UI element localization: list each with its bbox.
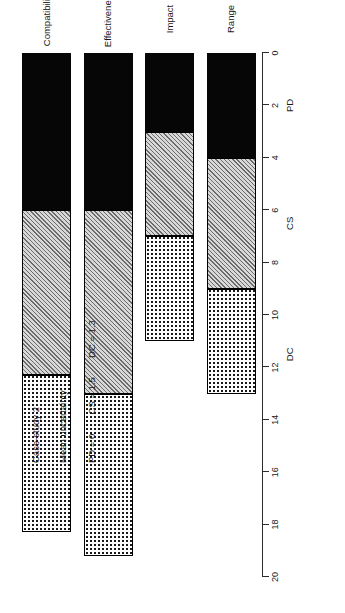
axis-tick-label-4: 4: [271, 155, 280, 160]
axis-tick-label-10: 10: [271, 310, 280, 320]
category-label-range: Range: [226, 5, 236, 33]
axis-tick-2: [262, 104, 269, 105]
axis-tick-label-12: 12: [271, 362, 280, 372]
bar-segment-compatibility-pd: [22, 53, 71, 210]
bar-segment-impact-pd: [145, 53, 194, 132]
axis-tick-0: [262, 52, 269, 53]
axis-tick-6: [262, 209, 269, 210]
axis-group-label-cs: CS: [285, 217, 295, 230]
category-label-impact: Impact: [165, 5, 175, 34]
axis-tick-label-14: 14: [271, 415, 280, 425]
mean-uncertainty-values: PD = 0 CS = 1.5 DC = 1.3: [86, 320, 97, 463]
cs-mean-value: CS = 1.5: [86, 377, 97, 414]
annotation-block: Case-study 2 Mean uncertainty PD = 0 CS …: [30, 320, 97, 463]
axis-tick-label-0: 0: [271, 50, 280, 55]
value-axis-line: [262, 53, 263, 577]
axis-tick-label-6: 6: [271, 208, 280, 213]
bar-segment-range-pd: [207, 53, 256, 158]
bar-segment-impact-cs: [145, 132, 194, 237]
axis-tick-label-20: 20: [271, 572, 280, 582]
axis-group-label-dc: DC: [285, 347, 295, 361]
axis-tick-8: [262, 262, 269, 263]
axis-group-label-pd: PD: [285, 99, 295, 112]
axis-tick-label-8: 8: [271, 260, 280, 265]
bar-segment-range-cs: [207, 158, 256, 289]
axis-tick-14: [262, 419, 269, 420]
pd-mean-value: PD = 0: [86, 434, 97, 463]
axis-tick-16: [262, 471, 269, 472]
chart-title: Case-study 2: [30, 320, 41, 463]
category-label-compatibility: Compatibility: [42, 0, 52, 46]
chart-canvas: 02468101214161820 PDCSDC RangeImpactEffe…: [0, 0, 345, 613]
rotated-plot-area: 02468101214161820 PDCSDC RangeImpactEffe…: [0, 0, 345, 613]
axis-tick-4: [262, 157, 269, 158]
bar-segment-range-dc: [207, 289, 256, 394]
axis-tick-18: [262, 524, 269, 525]
bar-segment-impact-dc: [145, 236, 194, 341]
axis-tick-12: [262, 366, 269, 367]
axis-tick-20: [262, 576, 269, 577]
axis-tick-label-2: 2: [271, 103, 280, 108]
dc-mean-value: DC = 1.3: [86, 320, 97, 358]
axis-tick-10: [262, 314, 269, 315]
chart-subtitle: Mean uncertainty: [57, 320, 68, 463]
category-label-effectiveness: Effectiveness: [103, 0, 113, 47]
axis-tick-label-18: 18: [271, 520, 280, 530]
bar-segment-effectiveness-pd: [84, 53, 133, 210]
axis-tick-label-16: 16: [271, 467, 280, 477]
